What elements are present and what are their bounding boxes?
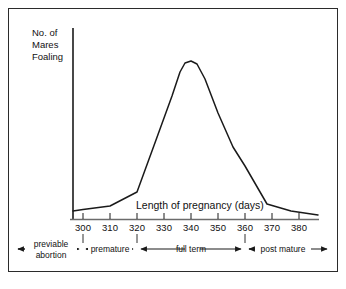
x-axis-label: Length of pregnancy (days) [136,199,264,211]
foaling-distribution-curve [73,61,318,215]
band-connector-lines [83,234,245,243]
band-previable-abortion: previable abortion [18,239,79,260]
x-tick-label-310: 310 [102,222,118,233]
band-post-mature: post mature [249,243,327,255]
band-label-post-mature: post mature [261,244,306,254]
band-premature: premature [86,243,133,255]
y-axis-label-line-1: No. of [32,27,58,38]
x-tick-label-370: 370 [264,222,280,233]
y-axis-label-line-2: Mares [32,39,59,50]
y-axis-label-line-3: Foaling [32,51,63,62]
x-tick-label-350: 350 [210,222,226,233]
x-tick-label-330: 330 [156,222,172,233]
band-full-term: full term [141,244,241,254]
band-label-full-term: full term [176,244,206,254]
pregnancy-length-chart: No. of Mares Foaling Length of pregnancy… [0,0,346,289]
x-tick-label-360: 360 [237,222,253,233]
figure-root: No. of Mares Foaling Length of pregnancy… [0,0,346,289]
x-tick-label-320: 320 [129,222,145,233]
x-tick-label-380: 380 [291,222,307,233]
x-tick-label-300: 300 [75,222,91,233]
band-label-previable: previable [34,239,69,249]
x-tick-label-340: 340 [183,222,199,233]
band-label-premature: premature [91,244,130,254]
x-axis-ticks [83,213,299,219]
band-label-abortion: abortion [36,250,67,260]
